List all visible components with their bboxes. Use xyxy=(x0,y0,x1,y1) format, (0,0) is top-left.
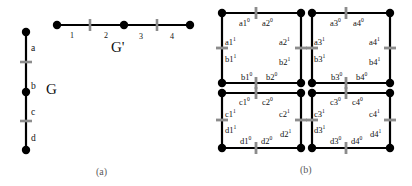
graph-G-edge-label-a: a xyxy=(31,44,35,54)
graph-G-prime-node-left xyxy=(53,21,61,29)
square-br-node-d4 xyxy=(386,144,394,152)
label-a4-1: a41 xyxy=(369,38,380,47)
square-tl-node-a1 xyxy=(218,9,226,17)
label-a4-0: a40 xyxy=(353,19,364,28)
label-b4-1: b41 xyxy=(369,58,380,67)
graph-G-edge-label-c: c xyxy=(31,108,35,118)
label-a1-1: a11 xyxy=(225,38,236,47)
label-c3-0: c30 xyxy=(330,98,341,107)
graph-G-prime-edge-label-3: 3 xyxy=(139,33,143,41)
square-br-node-d3 xyxy=(308,144,316,152)
label-b3-1: b31 xyxy=(314,55,325,64)
label-d2-1: d21 xyxy=(280,130,291,139)
figure-container: a b c d G 1 2 3 4 G' a10 a20 a11 a21 b11… xyxy=(0,0,412,186)
graph-G-prime-edge-label-1: 1 xyxy=(70,32,74,40)
graph-G-name-label: G xyxy=(46,82,57,97)
label-d3-0: d30 xyxy=(330,137,341,146)
square-tl-node-b1 xyxy=(218,79,226,87)
square-tr-node-a3 xyxy=(308,9,316,17)
label-c1-0: c10 xyxy=(239,98,250,107)
panel-caption-b: (b) xyxy=(300,164,312,175)
label-c2-1: c21 xyxy=(279,110,290,119)
label-a3-0: a30 xyxy=(330,19,341,28)
label-d2-0: d20 xyxy=(261,137,272,146)
label-c2-0: c20 xyxy=(262,98,273,107)
label-a1-0: a10 xyxy=(239,19,250,28)
graph-G-prime-node-right xyxy=(186,21,194,29)
label-d3-1: d31 xyxy=(314,126,325,135)
label-d1-1: d11 xyxy=(225,126,236,135)
graph-G-node-mid xyxy=(22,88,30,96)
graph-G-node-top xyxy=(22,28,30,36)
label-c4-0: c40 xyxy=(352,98,363,107)
label-a2-0: a20 xyxy=(262,19,273,28)
square-top-right xyxy=(306,7,396,89)
label-c4-1: c41 xyxy=(369,110,380,119)
graph-G-prime xyxy=(53,19,194,31)
square-tr-node-a4 xyxy=(386,9,394,17)
graph-G-node-bottom xyxy=(22,146,30,154)
label-b1-1: b11 xyxy=(225,55,236,64)
square-tl-node-b2 xyxy=(297,79,305,87)
label-b3-0: b30 xyxy=(331,73,342,82)
square-bl-node-d2 xyxy=(297,144,305,152)
square-tr-node-b4 xyxy=(386,79,394,87)
graph-G-prime-edge-label-4: 4 xyxy=(170,33,174,41)
graph-G-edge-label-b: b xyxy=(31,82,36,92)
graph-G-prime-edge-label-2: 2 xyxy=(104,32,108,40)
label-a3-1: a31 xyxy=(314,38,325,47)
square-tl-node-a2 xyxy=(297,9,305,17)
label-b1-0: b10 xyxy=(241,73,252,82)
label-c3-1: c31 xyxy=(314,110,325,119)
square-tr-node-b3 xyxy=(308,79,316,87)
label-b4-0: b40 xyxy=(356,73,367,82)
figure-vector-layer xyxy=(0,0,412,186)
label-d4-0: d40 xyxy=(351,137,362,146)
label-b2-0: b20 xyxy=(266,73,277,82)
square-br-node-c4 xyxy=(386,89,394,97)
label-b2-1: b21 xyxy=(279,58,290,67)
label-d4-1: d41 xyxy=(370,130,381,139)
graph-G-edge-label-d: d xyxy=(31,134,36,144)
graph-G-prime-node-mid xyxy=(120,21,128,29)
panel-caption-a: (a) xyxy=(96,166,107,177)
square-br-node-c3 xyxy=(308,89,316,97)
square-bl-node-c2 xyxy=(297,89,305,97)
label-d1-0: d10 xyxy=(240,137,251,146)
label-c1-1: c11 xyxy=(225,110,236,119)
label-a2-1: a21 xyxy=(279,38,290,47)
square-bl-node-d1 xyxy=(218,144,226,152)
graph-G-prime-name-label: G' xyxy=(111,40,125,55)
square-bl-node-c1 xyxy=(218,89,226,97)
